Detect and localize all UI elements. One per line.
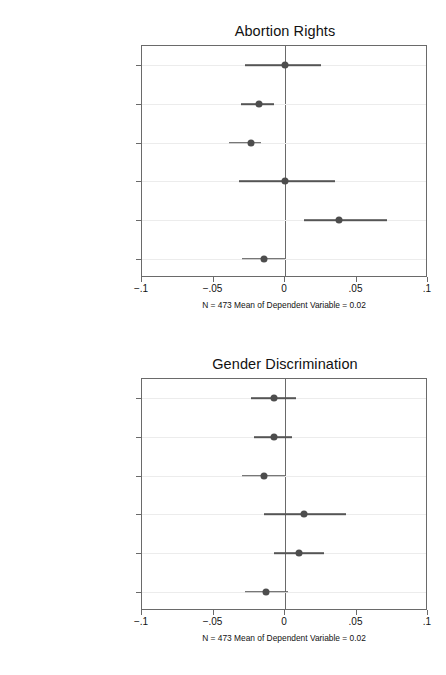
x-axis-tick xyxy=(427,610,428,615)
x-axis-tick-label: 0 xyxy=(281,616,287,627)
gridline xyxy=(142,104,426,105)
x-axis-tick-label: −.1 xyxy=(134,616,148,627)
x-axis-tick-label: .1 xyxy=(423,283,431,294)
chart-note-gender-discrimination: N = 473 Mean of Dependent Variable = 0.0… xyxy=(141,633,427,643)
coefficient-point xyxy=(336,217,343,224)
plot-area-gender-discrimination: Female, Same PartyMale, Different PartyM… xyxy=(141,378,427,610)
y-axis-tick xyxy=(136,143,141,144)
x-axis-tick-label: 0 xyxy=(281,283,287,294)
x-axis-tick xyxy=(356,610,357,615)
figure-container: Abortion Rights Female, Same PartyMale, … xyxy=(0,0,446,675)
x-axis-tick xyxy=(356,277,357,282)
coefficient-point xyxy=(260,255,267,262)
x-axis-tick-label: .05 xyxy=(349,283,363,294)
y-axis-tick xyxy=(136,592,141,593)
x-axis-tick-label: −.1 xyxy=(134,283,148,294)
gridline xyxy=(142,143,426,144)
x-axis-tick xyxy=(213,277,214,282)
zero-reference-line xyxy=(285,46,286,276)
y-axis-tick xyxy=(136,65,141,66)
y-axis-tick xyxy=(136,398,141,399)
x-axis-tick-label: .1 xyxy=(423,616,431,627)
coefficient-point xyxy=(270,395,277,402)
x-axis-gender-discrimination: −.1−.050.05.1 xyxy=(141,610,427,616)
chart-title-gender-discrimination: Gender Discrimination xyxy=(140,355,430,373)
x-axis-tick-label: −.05 xyxy=(203,283,223,294)
x-axis-tick xyxy=(427,277,428,282)
zero-reference-line xyxy=(285,379,286,609)
y-axis-tick xyxy=(136,220,141,221)
x-axis-tick xyxy=(284,277,285,282)
x-axis-tick xyxy=(213,610,214,615)
x-axis-abortion-rights: −.1−.050.05.1 xyxy=(141,277,427,283)
coefficient-point xyxy=(256,101,263,108)
x-axis-tick xyxy=(284,610,285,615)
y-axis-tick xyxy=(136,476,141,477)
coefficient-point xyxy=(270,434,277,441)
y-axis-tick xyxy=(136,437,141,438)
coefficient-point xyxy=(296,550,303,557)
coefficient-point xyxy=(282,178,289,185)
y-axis-tick xyxy=(136,259,141,260)
coefficient-point xyxy=(260,472,267,479)
plot-area-abortion-rights: Female, Same PartyMale, Different PartyM… xyxy=(141,45,427,277)
coefficient-point xyxy=(263,588,270,595)
chart-panel-abortion-rights: Abortion Rights Female, Same PartyMale, … xyxy=(0,22,446,340)
y-axis-tick xyxy=(136,514,141,515)
confidence-interval-bar xyxy=(304,219,387,221)
y-axis-tick xyxy=(136,553,141,554)
confidence-interval-bar xyxy=(229,142,260,144)
coefficient-point xyxy=(247,139,254,146)
x-axis-tick-label: .05 xyxy=(349,616,363,627)
chart-panel-gender-discrimination: Gender Discrimination Female, Same Party… xyxy=(0,355,446,673)
x-axis-tick xyxy=(141,610,142,615)
y-axis-tick xyxy=(136,181,141,182)
x-axis-tick xyxy=(141,277,142,282)
x-axis-tick-label: −.05 xyxy=(203,616,223,627)
chart-title-abortion-rights: Abortion Rights xyxy=(140,22,430,40)
coefficient-point xyxy=(300,511,307,518)
chart-note-abortion-rights: N = 473 Mean of Dependent Variable = 0.0… xyxy=(141,300,427,310)
y-axis-tick xyxy=(136,104,141,105)
coefficient-point xyxy=(282,62,289,69)
